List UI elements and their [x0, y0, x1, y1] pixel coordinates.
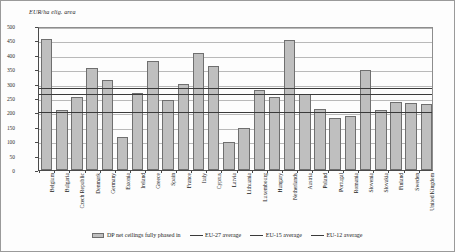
bar-slot[interactable] [282, 28, 297, 170]
y-tick-mark [35, 157, 38, 158]
bar-slot[interactable] [221, 28, 236, 170]
bar-slot[interactable] [39, 28, 54, 170]
bar[interactable] [132, 93, 144, 170]
x-axis-labels: BelgiumBulgariaCzech RepublicDenmarkGerm… [38, 173, 433, 229]
bar-slot[interactable] [358, 28, 373, 170]
bar-slot[interactable] [69, 28, 84, 170]
average-line [39, 88, 432, 89]
x-tick-label: Spain [170, 173, 176, 186]
bar[interactable] [375, 110, 387, 170]
y-tick-mark [35, 128, 38, 129]
bar-slot[interactable] [419, 28, 434, 170]
bar[interactable] [208, 66, 220, 170]
bar[interactable] [178, 84, 190, 170]
y-tick-label: 250 [0, 96, 15, 102]
bar[interactable] [56, 110, 68, 170]
bar[interactable] [329, 118, 341, 170]
bar-slot[interactable] [297, 28, 312, 170]
bar[interactable] [238, 128, 250, 170]
legend-label: EU-27 average [205, 232, 241, 238]
y-tick-mark [35, 99, 38, 100]
x-tick-label: Hungary [277, 173, 283, 193]
y-tick-label: 100 [0, 139, 15, 145]
bar-slot[interactable] [373, 28, 388, 170]
bar-slot[interactable] [191, 28, 206, 170]
x-tick-label: Sweden [414, 173, 420, 191]
bar-slot[interactable] [206, 28, 221, 170]
bar[interactable] [117, 137, 129, 171]
bar-slot[interactable] [388, 28, 403, 170]
bar-slot[interactable] [176, 28, 191, 170]
bar-slot[interactable] [130, 28, 145, 170]
y-tick-label: 300 [0, 82, 15, 88]
bar[interactable] [86, 68, 98, 170]
x-tick-label: Luxembourg [262, 173, 268, 202]
bar-series [39, 28, 432, 170]
bar-slot[interactable] [312, 28, 327, 170]
bar[interactable] [421, 104, 433, 170]
legend-line-swatch-icon [190, 235, 203, 236]
bar[interactable] [299, 94, 311, 170]
legend-line-swatch-icon [250, 235, 263, 236]
bar-slot[interactable] [161, 28, 176, 170]
x-tick-label: Belgium [49, 173, 55, 192]
x-tick-label: Slovenia [368, 173, 374, 193]
y-tick-mark [35, 70, 38, 71]
x-tick-label: France [186, 173, 192, 188]
bar-slot[interactable] [328, 28, 343, 170]
bar[interactable] [284, 40, 296, 170]
legend-item[interactable]: EU-12 average [311, 232, 363, 238]
x-tick-label: Netherlands [292, 173, 298, 200]
bar-slot[interactable] [145, 28, 160, 170]
x-tick-label: Austria [307, 173, 313, 189]
y-tick-mark [35, 113, 38, 114]
legend-line-swatch-icon [311, 235, 324, 236]
x-tick-label: Portugal [338, 173, 344, 192]
x-tick-label: Romania [353, 173, 359, 193]
chart-figure: EUR/ha elig. area 0501001502002503003504… [0, 0, 455, 252]
bar[interactable] [254, 90, 266, 170]
bar-slot[interactable] [54, 28, 69, 170]
y-tick-label: 50 [0, 154, 15, 160]
y-tick-label: 350 [0, 67, 15, 73]
bar-slot[interactable] [115, 28, 130, 170]
bar[interactable] [360, 70, 372, 170]
y-tick-mark [35, 41, 38, 42]
bar[interactable] [147, 61, 159, 170]
bar[interactable] [223, 142, 235, 170]
bar[interactable] [405, 103, 417, 170]
bar[interactable] [345, 116, 357, 170]
average-line [39, 94, 432, 95]
bar[interactable] [314, 109, 326, 170]
y-tick-mark [35, 85, 38, 86]
x-tick-label: Czech Republic [79, 173, 85, 209]
bar-slot[interactable] [85, 28, 100, 170]
bar-slot[interactable] [100, 28, 115, 170]
bar-slot[interactable] [252, 28, 267, 170]
y-tick-mark [35, 142, 38, 143]
bar-slot[interactable] [237, 28, 252, 170]
legend-item[interactable]: EU-15 average [250, 232, 302, 238]
average-line [39, 112, 432, 113]
legend-label: EU-15 average [266, 232, 302, 238]
bar-slot[interactable] [404, 28, 419, 170]
bar[interactable] [162, 100, 174, 170]
bar-slot[interactable] [267, 28, 282, 170]
y-tick-label: 150 [0, 125, 15, 131]
y-tick-label: 200 [0, 110, 15, 116]
legend-item[interactable]: EU-27 average [190, 232, 242, 238]
bar-slot[interactable] [343, 28, 358, 170]
x-tick-label: Germany [110, 173, 116, 194]
legend-label: DP net ceilings fully phased in [107, 232, 181, 238]
y-tick-label: 400 [0, 53, 15, 59]
x-tick-label: Lithuania [246, 173, 252, 194]
chart-legend: DP net ceilings fully phased inEU-27 ave… [1, 232, 454, 238]
x-tick-label: Estonia [125, 173, 131, 190]
bar[interactable] [41, 39, 53, 170]
x-tick-label: Italy [201, 173, 207, 183]
legend-item[interactable]: DP net ceilings fully phased in [92, 232, 180, 238]
bar[interactable] [71, 97, 83, 170]
bar[interactable] [269, 97, 281, 170]
y-tick-label: 0 [0, 168, 15, 174]
x-tick-label: Poland [322, 173, 328, 189]
